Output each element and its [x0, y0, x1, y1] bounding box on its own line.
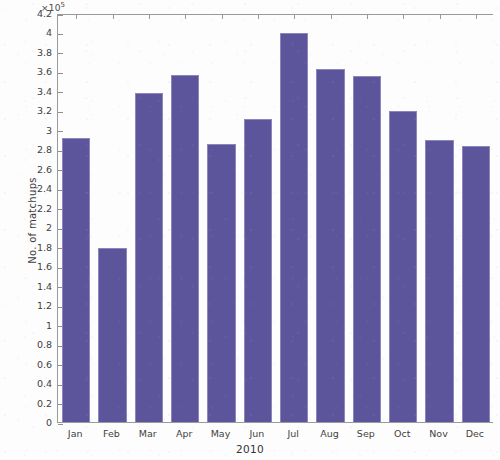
- x-axis-tick-label: Nov: [420, 428, 456, 439]
- bar: [425, 140, 453, 422]
- top-axis-tick-mark: [185, 15, 186, 19]
- y-axis-tick-label: 0: [46, 417, 52, 428]
- y-axis-tick-label: 1.4: [37, 281, 52, 292]
- top-axis-tick-mark: [367, 15, 368, 19]
- y-axis-tick-mark: [58, 53, 63, 54]
- x-axis-tick-label: Jul: [275, 428, 311, 439]
- y-axis-tick-label: 3: [46, 125, 52, 136]
- y-axis-tick-label: 3.4: [37, 86, 52, 97]
- top-axis-tick-mark: [294, 15, 295, 19]
- x-axis-title: 2010: [0, 443, 500, 455]
- y-axis-tick-label: 2.2: [37, 203, 52, 214]
- bar-chart-figure: ×105 No. of matchups 00.20.40.60.811.21.…: [0, 0, 500, 460]
- y-axis-tick-mark: [58, 15, 63, 16]
- plot-area: 00.20.40.60.811.21.41.61.822.22.42.62.83…: [57, 14, 493, 423]
- x-axis-tick-label: Feb: [93, 428, 129, 439]
- bar: [244, 119, 272, 422]
- y-axis-tick-mark: [58, 131, 63, 132]
- y-axis-tick-label: 4.2: [37, 8, 52, 19]
- x-axis-tick-label: Sep: [348, 428, 384, 439]
- top-axis-tick-mark: [258, 15, 259, 19]
- y-axis-tick-label: 1.6: [37, 261, 52, 272]
- y-axis-tick-label: 3.8: [37, 47, 52, 58]
- y-axis-tick-label: 2.8: [37, 144, 52, 155]
- y-axis-tick-label: 0.2: [37, 398, 52, 409]
- top-axis-tick-mark: [440, 15, 441, 19]
- top-axis-tick-mark: [222, 15, 223, 19]
- y-axis-tick-label: 3.6: [37, 66, 52, 77]
- y-axis-tick-label: 3.2: [37, 105, 52, 116]
- bar: [171, 75, 199, 422]
- y-axis-tick-mark: [58, 424, 63, 425]
- top-axis-tick-mark: [149, 15, 150, 19]
- y-axis-tick-label: 1.8: [37, 242, 52, 253]
- bar: [62, 138, 90, 422]
- x-axis-tick-label: May: [202, 428, 238, 439]
- bar: [353, 76, 381, 422]
- y-axis-tick-mark: [58, 73, 63, 74]
- bar: [462, 146, 490, 422]
- y-axis-tick-mark: [58, 34, 63, 35]
- y-axis-tick-label: 0.6: [37, 359, 52, 370]
- y-axis-tick-label: 1: [46, 320, 52, 331]
- top-axis-tick-mark: [76, 15, 77, 19]
- y-axis-exponent-power: 5: [61, 1, 66, 9]
- bar: [135, 93, 163, 422]
- y-axis-tick-mark: [58, 92, 63, 93]
- x-axis-tick-label: Jun: [239, 428, 275, 439]
- x-axis-tick-label: Dec: [457, 428, 493, 439]
- x-axis-tick-label: Mar: [130, 428, 166, 439]
- bar: [280, 33, 308, 422]
- top-axis-tick-mark: [331, 15, 332, 19]
- top-axis-tick-mark: [113, 15, 114, 19]
- y-axis-tick-label: 0.8: [37, 339, 52, 350]
- y-axis-tick-label: 0.4: [37, 378, 52, 389]
- y-axis-tick-label: 2.4: [37, 183, 52, 194]
- bar: [316, 69, 344, 422]
- x-axis-tick-label: Aug: [311, 428, 347, 439]
- y-axis-tick-label: 2.6: [37, 164, 52, 175]
- bar: [98, 248, 126, 422]
- x-axis-tick-label: Apr: [166, 428, 202, 439]
- y-axis-tick-label: 1.2: [37, 300, 52, 311]
- y-axis-title: No. of matchups: [27, 141, 38, 301]
- x-axis-tick-label: Oct: [384, 428, 420, 439]
- bar: [207, 144, 235, 422]
- y-axis-tick-mark: [58, 112, 63, 113]
- y-axis-tick-label: 4: [46, 27, 52, 38]
- y-axis-tick-label: 2: [46, 222, 52, 233]
- bar: [389, 111, 417, 422]
- top-axis-tick-mark: [403, 15, 404, 19]
- x-axis-tick-label: Jan: [57, 428, 93, 439]
- top-axis-tick-mark: [476, 15, 477, 19]
